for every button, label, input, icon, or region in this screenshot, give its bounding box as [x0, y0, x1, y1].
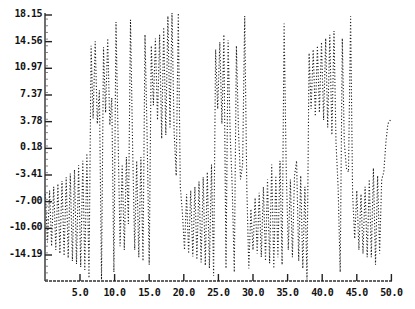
- x-tick-label: 50.0: [380, 287, 402, 298]
- y-tick-label: 0.18: [20, 141, 42, 152]
- x-axis-ticks: [80, 274, 391, 281]
- y-tick-label: 14.56: [14, 35, 42, 46]
- signal-line: [45, 13, 391, 280]
- y-tick-label: 3.78: [20, 115, 42, 126]
- x-tick-label: 15.0: [138, 287, 160, 298]
- x-tick-label: 40.0: [311, 287, 333, 298]
- y-tick-label: -14.19: [9, 248, 42, 259]
- y-tick-label: -10.60: [9, 221, 42, 232]
- chart-canvas: [0, 0, 415, 309]
- x-tick-label: 25.0: [207, 287, 229, 298]
- plot-series: [45, 13, 391, 280]
- x-tick-label: 45.0: [346, 287, 368, 298]
- x-tick-label: 20.0: [173, 287, 195, 298]
- y-tick-label: 7.37: [20, 88, 42, 99]
- y-axis-ticks: [45, 15, 52, 280]
- y-tick-label: 10.97: [14, 61, 42, 72]
- x-tick-label: 5.0: [72, 287, 89, 298]
- x-tick-label: 30.0: [242, 287, 264, 298]
- x-tick-label: 10.0: [104, 287, 126, 298]
- x-tick-label: 35.0: [277, 287, 299, 298]
- y-tick-label: -7.00: [14, 195, 42, 206]
- y-tick-label: -3.41: [14, 168, 42, 179]
- y-tick-label: 18.15: [14, 8, 42, 19]
